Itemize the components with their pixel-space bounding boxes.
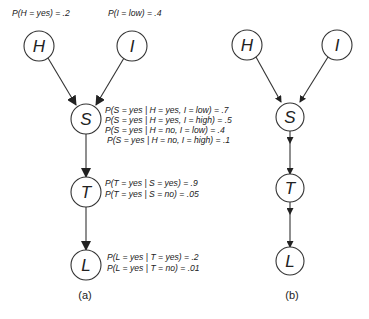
bayesian-network-figure: P(H = yes) = .2 P(I = low) = .4 H I S T … xyxy=(0,0,369,319)
cpt-l-row: P(L = yes | T = no) = .01 xyxy=(107,263,200,273)
cpt-t: P(T = yes | S = yes) = .9 P(T = yes | S … xyxy=(105,178,199,199)
node-s: S xyxy=(71,104,101,134)
node-i-label: I xyxy=(130,37,135,56)
cpt-s-row: P(S = yes | H = yes, I = high) = .5 xyxy=(105,115,232,125)
node-s-label: S xyxy=(80,110,92,129)
cpt-l: P(L = yes | T = yes) = .2 P(L = yes | T … xyxy=(107,252,200,273)
diagram-a: P(H = yes) = .2 P(I = low) = .4 H I S T … xyxy=(12,8,232,301)
prior-h: P(H = yes) = .2 xyxy=(12,8,70,18)
cpt-s-row: P(S = yes | H = no, I = low) = .4 xyxy=(105,125,225,135)
edge-h-to-s xyxy=(256,57,281,102)
node-h-label: H xyxy=(241,36,254,55)
node-l: L xyxy=(276,247,304,275)
edge-h-to-s xyxy=(48,58,76,105)
cpt-s-row: P(S = yes | H = yes, I = low) = .7 xyxy=(105,105,230,115)
edge-i-to-s xyxy=(300,57,328,102)
node-t-label: T xyxy=(81,183,93,202)
node-h: H xyxy=(24,31,54,61)
node-h-label: H xyxy=(33,37,46,56)
node-t-label: T xyxy=(285,179,297,198)
node-l-label: L xyxy=(81,256,90,275)
node-l-label: L xyxy=(285,252,294,271)
node-i-label: I xyxy=(335,36,340,55)
node-i: I xyxy=(322,30,352,60)
cpt-s: P(S = yes | H = yes, I = low) = .7 P(S =… xyxy=(105,105,232,145)
caption-b: (b) xyxy=(285,289,298,301)
caption-a: (a) xyxy=(78,289,91,301)
node-t: T xyxy=(276,174,304,202)
node-t: T xyxy=(71,177,101,207)
node-i: I xyxy=(117,31,147,61)
cpt-l-row: P(L = yes | T = yes) = .2 xyxy=(107,252,199,262)
node-h: H xyxy=(232,30,262,60)
node-s: S xyxy=(276,103,304,131)
cpt-t-row: P(T = yes | S = yes) = .9 xyxy=(105,178,198,188)
prior-i: P(I = low) = .4 xyxy=(108,8,162,18)
node-l: L xyxy=(71,250,101,280)
cpt-t-row: P(T = yes | S = no) = .05 xyxy=(105,189,199,199)
diagram-b: H I S T L (b) xyxy=(232,30,352,301)
node-s-label: S xyxy=(284,108,296,127)
edge-i-to-s xyxy=(96,58,124,105)
cpt-s-row: P(S = yes | H = no, I = high) = .1 xyxy=(107,135,230,145)
